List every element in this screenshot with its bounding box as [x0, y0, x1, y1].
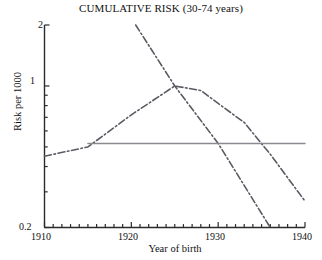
x-axis-ticks — [45, 222, 306, 228]
cumulative-risk-chart: CUMULATIVE RISK (30-74 years) Risk per 1… — [0, 0, 322, 260]
plot-area — [0, 0, 322, 260]
data-series-group — [45, 25, 306, 228]
axes — [44, 25, 305, 228]
series-steep-declining-cohort-curve — [136, 25, 271, 228]
y-axis-ticks — [45, 25, 50, 228]
